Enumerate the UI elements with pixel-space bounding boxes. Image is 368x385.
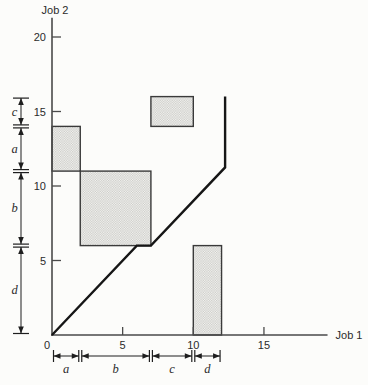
bottom-dim-arrow-left-b bbox=[82, 353, 89, 359]
x-tick-label-15: 15 bbox=[258, 339, 270, 351]
left-dim-arrow-down-a bbox=[18, 163, 24, 170]
bottom-interval-label-b: b bbox=[112, 362, 118, 376]
left-interval-label-b: b bbox=[11, 201, 17, 215]
left-interval-label-c: c bbox=[12, 105, 18, 119]
left-dim-arrow-down-c bbox=[18, 118, 24, 125]
bottom-dim-arrow-right-b bbox=[142, 353, 149, 359]
conflict-rect-d bbox=[193, 246, 221, 335]
bottom-dim-arrow-right-a bbox=[72, 353, 79, 359]
left-dim-arrow-up-a bbox=[18, 128, 24, 135]
left-interval-label-d: d bbox=[11, 283, 18, 297]
x-axis-label: Job 1 bbox=[336, 329, 363, 341]
left-dim-arrow-down-b bbox=[18, 237, 24, 244]
y-tick-label-20: 20 bbox=[34, 31, 46, 43]
y-tick-label-10: 10 bbox=[34, 180, 46, 192]
two-job-schedule-chart: 5101520051015Job 2Job 1dbacabcd bbox=[0, 0, 368, 385]
y-axis-label: Job 2 bbox=[42, 4, 69, 16]
bottom-dim-arrow-right-d bbox=[213, 353, 220, 359]
left-dim-arrow-down-d bbox=[18, 327, 24, 334]
y-tick-label-5: 5 bbox=[40, 255, 46, 267]
conflict-rect-a bbox=[52, 126, 80, 171]
left-interval-label-a: a bbox=[11, 142, 17, 156]
left-dim-arrow-up-b bbox=[18, 173, 24, 180]
x-tick-label-5: 5 bbox=[120, 339, 126, 351]
conflict-rect-c bbox=[151, 97, 193, 127]
x-tick-label-0: 0 bbox=[44, 339, 50, 351]
bottom-interval-label-a: a bbox=[63, 362, 69, 376]
bottom-interval-label-d: d bbox=[204, 362, 211, 376]
left-dim-arrow-up-d bbox=[18, 247, 24, 254]
bottom-dim-arrow-left-c bbox=[152, 353, 159, 359]
bottom-dim-arrow-left-a bbox=[54, 353, 61, 359]
x-tick-label-10: 10 bbox=[187, 339, 199, 351]
left-dim-arrow-up-c bbox=[18, 98, 24, 105]
bottom-dim-arrow-right-c bbox=[185, 353, 192, 359]
bottom-interval-label-c: c bbox=[169, 362, 175, 376]
conflict-rect-b bbox=[80, 171, 151, 246]
bottom-dim-arrow-left-d bbox=[195, 353, 202, 359]
figure-page: 5101520051015Job 2Job 1dbacabcd bbox=[0, 0, 368, 385]
y-tick-label-15: 15 bbox=[34, 106, 46, 118]
